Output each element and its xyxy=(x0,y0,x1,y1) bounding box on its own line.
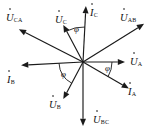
overdot-u-bc xyxy=(96,110,98,112)
vector-i-b xyxy=(28,62,83,65)
label-symbol-u-a: U xyxy=(130,56,138,67)
arrowhead-u-bc xyxy=(80,119,86,126)
overdot-u-a xyxy=(133,52,135,54)
arrowhead-u-a xyxy=(118,59,125,65)
label-i-b: IB xyxy=(7,70,15,86)
label-subscript-i-c: C xyxy=(94,12,98,18)
label-symbol-i-b: I xyxy=(7,74,11,85)
label-subscript-u-ca: CA xyxy=(14,17,23,23)
phasor-diagram: UCAUCICUABUAIAUBCUBIB φφφ xyxy=(0,0,156,138)
vector-u-ca xyxy=(25,33,83,62)
label-i-c: IC xyxy=(90,3,98,19)
arrowhead-u-ab xyxy=(136,24,144,30)
overdot-u-c xyxy=(58,10,60,12)
overdot-i-b xyxy=(8,70,10,72)
vector-u-b xyxy=(67,62,83,93)
label-symbol-u-c: U xyxy=(55,14,63,25)
label-subscript-i-b: B xyxy=(11,79,15,85)
label-symbol-i-c: I xyxy=(90,7,94,18)
label-subscript-u-b: B xyxy=(57,104,61,110)
label-subscript-u-a: A xyxy=(138,61,142,67)
overdot-u-ab xyxy=(123,8,125,10)
vector-i-a xyxy=(83,62,123,85)
phi-label-phi-b: φ xyxy=(61,70,66,79)
label-subscript-u-c: C xyxy=(63,19,67,25)
overdot-u-b xyxy=(52,95,54,97)
phi-label-phi-a: φ xyxy=(105,64,110,73)
label-u-ca: UCA xyxy=(6,8,22,24)
label-symbol-i-a: I xyxy=(128,86,132,97)
phi-label-phi-c: φ xyxy=(74,25,79,34)
overdot-i-c xyxy=(91,3,93,5)
label-i-a: IA xyxy=(128,82,136,98)
label-u-a: UA xyxy=(130,52,142,68)
overdot-u-ca xyxy=(9,8,11,10)
vectors-group xyxy=(19,6,144,126)
label-symbol-u-ab: U xyxy=(120,12,128,23)
label-subscript-i-a: A xyxy=(132,91,136,97)
vector-i-c xyxy=(83,13,86,62)
label-symbol-u-bc: U xyxy=(93,114,101,125)
label-symbol-u-ca: U xyxy=(6,12,14,23)
label-subscript-u-bc: BC xyxy=(101,119,109,125)
arrowhead-i-b xyxy=(21,62,28,68)
overdot-i-a xyxy=(129,82,131,84)
label-subscript-u-ab: AB xyxy=(128,17,137,23)
label-u-ab: UAB xyxy=(120,8,136,24)
label-u-bc: UBC xyxy=(93,110,109,126)
label-u-b: UB xyxy=(49,95,61,111)
label-u-c: UC xyxy=(55,10,67,26)
arrowhead-i-c xyxy=(83,6,89,13)
label-symbol-u-b: U xyxy=(49,99,57,110)
